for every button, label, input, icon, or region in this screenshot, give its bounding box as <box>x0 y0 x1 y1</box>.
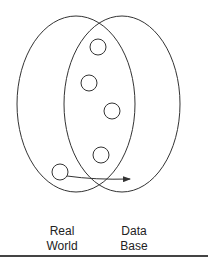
element-circle <box>93 147 109 163</box>
real-world-label: Real World <box>32 224 92 254</box>
bottom-divider <box>0 255 208 257</box>
element-circle <box>104 103 120 119</box>
data-base-label-line2: Base <box>104 239 164 254</box>
data-base-label-line1: Data <box>104 224 164 239</box>
real-world-element-circle <box>52 164 68 180</box>
venn-diagram <box>0 0 208 258</box>
real-world-label-line2: World <box>32 239 92 254</box>
data-base-ellipse <box>64 16 180 192</box>
real-world-label-line1: Real <box>32 224 92 239</box>
element-circle <box>81 75 97 91</box>
mapping-arrow <box>67 176 130 179</box>
data-base-label: Data Base <box>104 224 164 254</box>
element-circle <box>90 39 106 55</box>
real-world-ellipse <box>17 16 135 192</box>
